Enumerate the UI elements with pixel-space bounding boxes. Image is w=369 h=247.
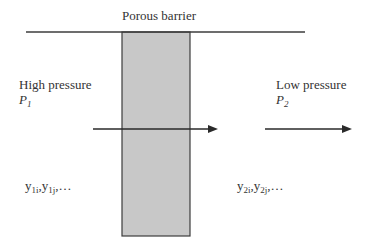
subscript-1i: 1i <box>32 185 39 195</box>
p2-symbol: P2 <box>276 92 288 107</box>
p1-base: P <box>19 92 27 107</box>
high-pressure-label: High pressure <box>19 77 92 92</box>
left-composition: y1i,y1j,… <box>25 178 72 193</box>
p1-subscript: 1 <box>27 99 32 109</box>
porous-barrier <box>122 32 190 236</box>
low-pressure-label: Low pressure <box>276 77 346 92</box>
p2-base: P <box>276 92 284 107</box>
p2-subscript: 2 <box>284 99 289 109</box>
ellipsis: ,… <box>55 178 71 193</box>
diagram-canvas <box>0 0 369 247</box>
right-composition: y2i,y2j,… <box>237 178 284 193</box>
subscript-2i: 2i <box>244 185 251 195</box>
p1-symbol: P1 <box>19 92 31 107</box>
barrier-title: Porous barrier <box>122 8 196 23</box>
ellipsis: ,… <box>267 178 283 193</box>
flow-arrow-low-side <box>265 125 352 133</box>
